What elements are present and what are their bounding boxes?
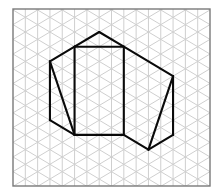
isometric-grid: [13, 0, 210, 196]
isometric-grid-figure: [0, 0, 221, 196]
grid-diagonal-up-line: [13, 186, 210, 196]
grid-diagonal-down-line: [13, 186, 210, 196]
